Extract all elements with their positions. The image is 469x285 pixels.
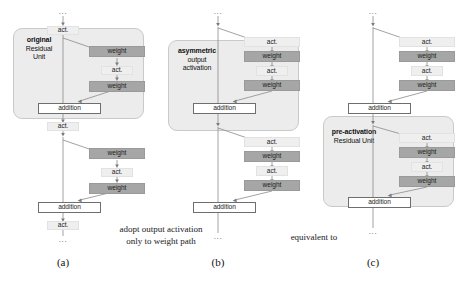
unit2-addition-c: addition xyxy=(348,197,411,208)
branch1-act-mid-b: act. xyxy=(256,66,288,76)
group-label-pre-activation-residual-unit: pre-activationResidual Unit xyxy=(323,128,385,145)
group-label-original-residual-unit: originalResidual Unit xyxy=(17,36,61,62)
group-label-rest-c: Residual Unit xyxy=(334,137,374,144)
branch1-act-top-c: act. xyxy=(399,37,455,47)
unit1-weight-1-a: weight xyxy=(89,46,145,57)
top-ellipsis-a: ... xyxy=(53,8,73,16)
group-label-bold-b: asymmetric xyxy=(178,47,216,54)
branch2-weight-1-c: weight xyxy=(399,147,455,158)
branch1-weight-1-c: weight xyxy=(399,51,455,62)
branch1-act-mid-c: act. xyxy=(411,66,443,76)
unit2-weight-1-a: weight xyxy=(89,148,145,159)
branch1-weight-2-b: weight xyxy=(244,80,300,91)
branch1-act-top-b: act. xyxy=(244,37,300,47)
branch2-act-mid-c: act. xyxy=(411,162,443,172)
group-label-rest-b: output activation xyxy=(183,56,212,72)
branch1-weight-2-c: weight xyxy=(399,80,455,91)
branch2-act-top-b: act. xyxy=(244,137,300,147)
unit1-addition-b: addition xyxy=(193,103,256,114)
unit2-weight-2-a: weight xyxy=(89,183,145,194)
unit1-act-mid-a: act. xyxy=(101,66,133,75)
unit1-addition-a: addition xyxy=(38,103,101,114)
unit1-addition-c: addition xyxy=(348,103,411,114)
bottom-ellipsis-c: ... xyxy=(363,228,383,236)
branch2-weight-2-c: weight xyxy=(399,176,455,187)
branch2-act-mid-b: act. xyxy=(256,166,288,176)
caption-b-to-c: equivalent to xyxy=(262,232,366,244)
branch2-act-top-c: act. xyxy=(399,133,455,143)
unit2-addition-a: addition xyxy=(38,202,101,213)
bottom-ellipsis-a: ... xyxy=(53,236,73,244)
branch2-weight-1-b: weight xyxy=(244,151,300,162)
panel-caption-a: (a) xyxy=(43,256,83,268)
figure-residual-unit-variants: originalResidual Unit xyxy=(0,0,469,285)
spine-act-top-a: act. xyxy=(47,26,79,35)
unit1-weight-2-a: weight xyxy=(89,81,145,92)
top-ellipsis-b: ... xyxy=(208,8,228,16)
panel-caption-c: (c) xyxy=(353,256,393,268)
caption-a-to-b: adopt output activation only to weight p… xyxy=(95,224,227,248)
unit2-act-mid-a: act. xyxy=(101,168,133,177)
group-label-asymmetric-output-activation: asymmetricoutput activation xyxy=(170,47,224,73)
group-label-rest-a: Residual Unit xyxy=(26,45,52,61)
group-label-bold-a: original xyxy=(27,36,51,43)
spine-act-bottom-a: act. xyxy=(47,221,79,230)
unit2-addition-b: addition xyxy=(193,202,256,213)
spine-act-mid-a: act. xyxy=(47,122,79,131)
group-label-bold-c: pre-activation xyxy=(332,128,377,135)
branch2-weight-2-b: weight xyxy=(244,180,300,191)
branch1-weight-1-b: weight xyxy=(244,51,300,62)
panel-caption-b: (b) xyxy=(198,256,238,268)
top-ellipsis-c: ... xyxy=(363,8,383,16)
